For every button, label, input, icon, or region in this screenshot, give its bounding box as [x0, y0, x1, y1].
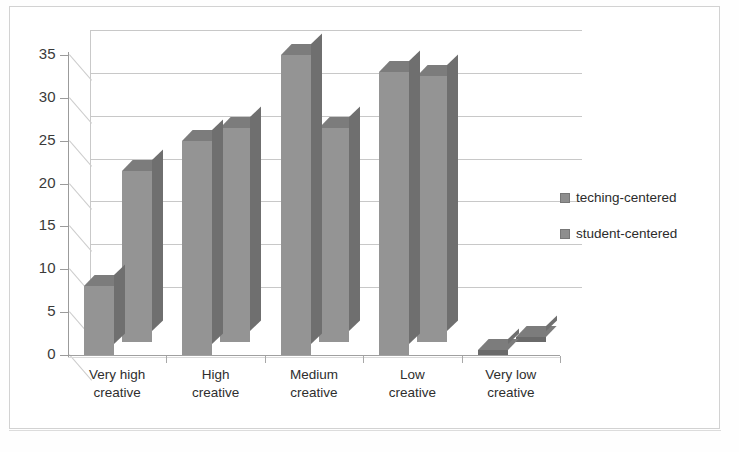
category-label-line: Very low — [459, 366, 563, 384]
y-axis-tick — [60, 226, 69, 227]
y-axis-tick-label: 15 — [22, 216, 56, 233]
y-axis-tick-label: 30 — [22, 88, 56, 105]
gridline — [90, 30, 582, 31]
y-axis-tick — [60, 269, 69, 270]
chart-screenshot: 05101520253035 Very highcreativeHighcrea… — [0, 0, 739, 452]
category-label-line: Very high — [65, 366, 169, 384]
y-axis-tick — [60, 355, 69, 356]
chart-legend: teching-centered student-centered — [560, 190, 730, 262]
bar-teching-centered[interactable] — [379, 72, 409, 355]
bar-teching-centered[interactable] — [84, 286, 114, 355]
y-axis-tick — [60, 98, 69, 99]
legend-swatch-icon — [560, 229, 570, 239]
y-axis-tick — [60, 184, 69, 185]
y-axis-tick — [60, 55, 69, 56]
bar-student-centered[interactable] — [417, 76, 447, 342]
bar-student-centered[interactable] — [516, 337, 546, 342]
category-label-line: creative — [360, 384, 464, 402]
bar-teching-centered[interactable] — [281, 55, 311, 355]
category-label: Mediumcreative — [262, 366, 366, 402]
legend-label: student-centered — [576, 226, 677, 241]
y-axis-tick-label: 20 — [22, 174, 56, 191]
x-axis-front-edge — [68, 357, 561, 358]
y-axis-tick — [60, 312, 69, 313]
category-label-line: Low — [360, 366, 464, 384]
category-label-line: Medium — [262, 366, 366, 384]
legend-label: teching-centered — [576, 190, 677, 205]
category-label-line: creative — [164, 384, 268, 402]
y-axis-tick-label: 25 — [22, 131, 56, 148]
x-axis-line — [68, 355, 560, 356]
y-axis-tick — [60, 141, 69, 142]
x-axis-tick — [560, 356, 561, 363]
bar-teching-centered[interactable] — [478, 350, 508, 355]
bar-student-centered[interactable] — [122, 171, 152, 342]
category-label-line: creative — [65, 384, 169, 402]
category-label: Highcreative — [164, 366, 268, 402]
legend-item-student-centered[interactable]: student-centered — [560, 226, 730, 241]
legend-item-teching-centered[interactable]: teching-centered — [560, 190, 730, 205]
category-label: Very lowcreative — [459, 366, 563, 402]
bar-student-centered[interactable] — [220, 128, 250, 342]
x-axis-tick — [462, 356, 463, 363]
legend-swatch-icon — [560, 193, 570, 203]
y-axis-tick-label: 10 — [22, 259, 56, 276]
y-axis-tick-label: 5 — [22, 302, 56, 319]
x-axis-tick — [363, 356, 364, 363]
category-label-line: High — [164, 366, 268, 384]
bar-student-centered[interactable] — [319, 128, 349, 342]
category-label: Very highcreative — [65, 366, 169, 402]
x-axis-tick — [166, 356, 167, 363]
category-label-line: creative — [459, 384, 563, 402]
y-axis-tick-label: 0 — [22, 345, 56, 362]
category-label: Lowcreative — [360, 366, 464, 402]
bar-teching-centered[interactable] — [182, 141, 212, 355]
x-axis-tick — [265, 356, 266, 363]
page-underline — [9, 430, 721, 431]
category-label-line: creative — [262, 384, 366, 402]
y-axis-tick-label: 35 — [22, 45, 56, 62]
gridline — [90, 73, 582, 74]
